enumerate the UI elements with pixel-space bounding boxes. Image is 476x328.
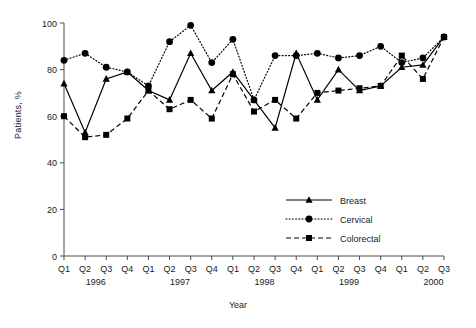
x-tick-label: Q4 [375, 264, 387, 274]
data-point-colorectal [357, 85, 363, 91]
x-tick-label: Q4 [121, 264, 133, 274]
y-tick-label: 80 [47, 65, 57, 75]
data-point-breast [335, 66, 342, 73]
data-point-colorectal [124, 116, 130, 122]
data-point-cervical [124, 69, 131, 76]
legend-label-cervical: Cervical [340, 215, 373, 225]
data-point-cervical [272, 52, 279, 59]
data-point-colorectal [293, 116, 299, 122]
y-tick-label: 60 [47, 112, 57, 122]
x-tick-label: Q1 [142, 264, 154, 274]
x-tick-label: Q2 [248, 264, 260, 274]
y-tick-label: 100 [42, 19, 57, 29]
data-point-breast [60, 80, 67, 87]
legend-label-colorectal: Colorectal [340, 234, 381, 244]
x-axis-year-label: 1999 [339, 277, 359, 287]
x-axis-year-label: 1998 [255, 277, 275, 287]
x-tick-label: Q4 [290, 264, 302, 274]
x-tick-label: Q1 [227, 264, 239, 274]
y-axis-label: Patients, % [13, 75, 23, 155]
data-point-colorectal [103, 132, 109, 138]
legend-marker-colorectal [306, 235, 312, 241]
data-point-colorectal [399, 53, 405, 59]
data-point-cervical [251, 96, 258, 103]
data-point-cervical [82, 50, 89, 57]
x-tick-label: Q2 [332, 264, 344, 274]
x-tick-label: Q1 [396, 264, 408, 274]
data-point-colorectal [209, 116, 215, 122]
data-point-cervical [335, 55, 342, 62]
x-tick-label: Q2 [417, 264, 429, 274]
data-point-breast [187, 49, 194, 56]
data-point-cervical [229, 36, 236, 43]
data-point-cervical [293, 52, 300, 59]
data-point-cervical [398, 59, 405, 66]
x-tick-label: Q1 [58, 264, 70, 274]
data-point-cervical [356, 52, 363, 59]
x-tick-label: Q4 [206, 264, 218, 274]
data-point-cervical [419, 55, 426, 62]
data-point-cervical [61, 57, 68, 64]
data-point-colorectal [230, 71, 236, 77]
x-tick-label: Q3 [185, 264, 197, 274]
data-point-colorectal [420, 76, 426, 82]
data-point-colorectal [335, 88, 341, 94]
x-axis-year-label: 1996 [86, 277, 106, 287]
data-point-colorectal [61, 113, 67, 119]
y-tick-label: 0 [52, 252, 57, 262]
line-chart-plot: 020406080100Q1Q2Q3Q4Q1Q2Q3Q4Q1Q2Q3Q4Q1Q2… [0, 0, 476, 328]
x-tick-label: Q1 [311, 264, 323, 274]
data-point-cervical [103, 64, 110, 71]
data-point-cervical [187, 22, 194, 29]
x-tick-label: Q2 [79, 264, 91, 274]
x-axis-year-label: 2000 [423, 277, 443, 287]
data-point-colorectal [272, 97, 278, 103]
data-point-colorectal [188, 97, 194, 103]
data-point-colorectal [314, 90, 320, 96]
figure-container: Patients, % Year 020406080100Q1Q2Q3Q4Q1Q… [0, 0, 476, 328]
series-line-colorectal [64, 37, 444, 137]
y-tick-label: 20 [47, 205, 57, 215]
x-axis-year-label: 1997 [170, 277, 190, 287]
y-tick-label: 40 [47, 158, 57, 168]
x-tick-label: Q3 [354, 264, 366, 274]
x-tick-label: Q3 [438, 264, 450, 274]
data-point-cervical [166, 38, 173, 45]
data-point-cervical [377, 43, 384, 50]
x-axis-label: Year [0, 300, 476, 310]
x-tick-label: Q3 [269, 264, 281, 274]
data-point-cervical [208, 59, 215, 66]
data-point-colorectal [167, 106, 173, 112]
data-point-colorectal [378, 83, 384, 89]
data-point-colorectal [82, 134, 88, 140]
data-point-colorectal [251, 109, 257, 115]
series-line-cervical [64, 25, 444, 100]
legend-marker-cervical [306, 216, 313, 223]
data-point-cervical [314, 50, 321, 57]
x-tick-label: Q2 [164, 264, 176, 274]
x-tick-label: Q3 [100, 264, 112, 274]
data-point-colorectal [441, 34, 447, 40]
data-point-colorectal [145, 88, 151, 94]
legend-label-breast: Breast [340, 196, 367, 206]
